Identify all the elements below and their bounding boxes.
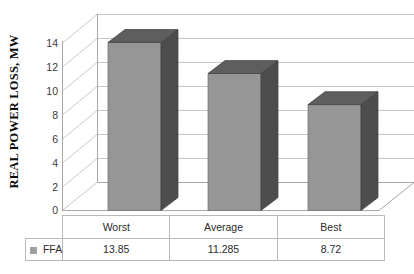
data-table: Worst Average Best FFA 13.85 11.285 8.72 [25,215,385,261]
y-tick-2: 2 [52,182,58,193]
y-tick-8: 8 [52,110,58,121]
table-row-categories: Worst Average Best [26,216,385,239]
y-tick-0: 0 [52,205,58,216]
y-tick-6: 6 [52,134,58,145]
y-tick-4: 4 [52,158,58,169]
y-tick-10: 10 [46,86,58,97]
chart-container: REAL POWER LOSS, MW 14 12 10 8 6 4 2 0 [0,0,414,274]
table-header-worst: Worst [63,216,170,239]
bar-best [308,92,378,211]
table-header-average: Average [170,216,277,239]
bar-average [208,61,278,211]
y-axis-title-text: REAL POWER LOSS, MW [8,34,23,188]
legend-entry-ffa: FFA [26,238,63,261]
plot-area [62,0,414,216]
table-corner-blank [26,216,63,239]
y-tick-12: 12 [46,62,58,73]
table-value-worst: 13.85 [63,238,170,261]
table-header-best: Best [277,216,384,239]
side-wall-depth-lines [62,15,97,211]
legend-swatch-icon [30,247,37,254]
table-value-average: 11.285 [170,238,277,261]
table-row: FFA 13.85 11.285 8.72 [26,238,385,261]
legend-label: FFA [43,243,62,255]
y-axis-title: REAL POWER LOSS, MW [0,0,30,222]
bar-worst [108,30,178,211]
y-tick-14: 14 [46,38,58,49]
y-axis-tick-labels: 14 12 10 8 6 4 2 0 [30,0,62,222]
table-value-best: 8.72 [277,238,384,261]
